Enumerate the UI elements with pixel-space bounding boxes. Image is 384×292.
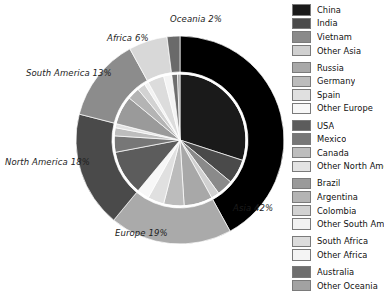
legend-label-other-africa: Other Africa xyxy=(317,250,367,260)
legend-label-china: China xyxy=(317,5,341,15)
legend-item-canada[interactable]: Canada xyxy=(292,146,384,160)
legend-label-other-oceania: Other Oceania xyxy=(317,281,378,291)
legend-group-south-america: BrazilArgentinaColombiaOther South Ame xyxy=(292,177,384,231)
legend-swatch-canada xyxy=(292,147,311,159)
legend-item-spain[interactable]: Spain xyxy=(292,88,384,102)
legend-label-other-asia: Other Asia xyxy=(317,46,361,56)
legend-label-colombia: Colombia xyxy=(317,206,356,216)
legend-item-china[interactable]: China xyxy=(292,3,384,17)
legend-swatch-other-africa xyxy=(292,249,311,261)
legend-item-other-asia[interactable]: Other Asia xyxy=(292,44,384,58)
legend-item-vietnam[interactable]: Vietnam xyxy=(292,30,384,44)
legend-label-spain: Spain xyxy=(317,90,340,100)
legend-item-other-europe[interactable]: Other Europe xyxy=(292,102,384,116)
legend-item-mexico[interactable]: Mexico xyxy=(292,132,384,146)
legend-group-oceania: AustraliaOther Oceania xyxy=(292,265,384,292)
legend-group-asia: ChinaIndiaVietnamOther Asia xyxy=(292,3,384,57)
pie-label-south-america: South America 13% xyxy=(26,68,112,78)
pie-label-oceania: Oceania 2% xyxy=(170,14,222,24)
legend-swatch-usa xyxy=(292,120,311,132)
legend-swatch-india xyxy=(292,18,311,30)
legend-item-other-north-ame[interactable]: Other North Ame xyxy=(292,160,384,174)
legend-item-germany[interactable]: Germany xyxy=(292,74,384,88)
legend-label-other-south-ame: Other South Ame xyxy=(317,219,384,229)
legend-item-other-africa[interactable]: Other Africa xyxy=(292,248,384,262)
legend-label-vietnam: Vietnam xyxy=(317,32,352,42)
legend-swatch-other-oceania xyxy=(292,280,311,292)
legend-label-usa: USA xyxy=(317,121,334,131)
legend-swatch-germany xyxy=(292,76,311,88)
legend-swatch-china xyxy=(292,4,311,16)
pie-label-asia: Asia 42% xyxy=(233,203,273,213)
legend-label-australia: Australia xyxy=(317,267,354,277)
legend-label-brazil: Brazil xyxy=(317,178,340,188)
pie-label-europe: Europe 19% xyxy=(115,228,168,238)
legend-item-usa[interactable]: USA xyxy=(292,119,384,133)
legend-swatch-brazil xyxy=(292,178,311,190)
legend-label-mexico: Mexico xyxy=(317,134,346,144)
legend-item-australia[interactable]: Australia xyxy=(292,265,384,279)
legend-label-south-africa: South Africa xyxy=(317,236,368,246)
legend-swatch-russia xyxy=(292,62,311,74)
inner-pie-countries xyxy=(114,74,246,206)
legend-group-north-america: USAMexicoCanadaOther North Ame xyxy=(292,119,384,173)
legend-swatch-vietnam xyxy=(292,31,311,43)
legend-swatch-south-africa xyxy=(292,236,311,248)
legend: ChinaIndiaVietnamOther AsiaRussiaGermany… xyxy=(292,3,384,246)
legend-label-other-europe: Other Europe xyxy=(317,103,373,113)
legend-label-other-north-ame: Other North Ame xyxy=(317,161,384,171)
legend-swatch-argentina xyxy=(292,191,311,203)
legend-item-other-south-ame[interactable]: Other South Ame xyxy=(292,217,384,231)
legend-swatch-other-europe xyxy=(292,103,311,115)
legend-swatch-other-asia xyxy=(292,45,311,57)
legend-group-africa: South AfricaOther Africa xyxy=(292,235,384,262)
legend-item-russia[interactable]: Russia xyxy=(292,61,384,75)
legend-item-south-africa[interactable]: South Africa xyxy=(292,235,384,249)
legend-item-colombia[interactable]: Colombia xyxy=(292,204,384,218)
pie-label-africa: Africa 6% xyxy=(107,33,149,43)
legend-label-argentina: Argentina xyxy=(317,192,358,202)
legend-swatch-spain xyxy=(292,89,311,101)
legend-label-canada: Canada xyxy=(317,148,349,158)
legend-swatch-colombia xyxy=(292,205,311,217)
legend-swatch-mexico xyxy=(292,133,311,145)
legend-item-other-oceania[interactable]: Other Oceania xyxy=(292,279,384,292)
pie-label-north-america: North America 18% xyxy=(5,157,90,167)
legend-item-brazil[interactable]: Brazil xyxy=(292,177,384,191)
nested-pie-chart: Oceania 2%Africa 6%South America 13%Nort… xyxy=(0,0,285,247)
legend-swatch-other-south-ame xyxy=(292,218,311,230)
legend-item-india[interactable]: India xyxy=(292,17,384,31)
legend-label-russia: Russia xyxy=(317,63,344,73)
legend-label-germany: Germany xyxy=(317,76,355,86)
legend-label-india: India xyxy=(317,18,338,28)
legend-item-argentina[interactable]: Argentina xyxy=(292,190,384,204)
legend-swatch-australia xyxy=(292,266,311,278)
legend-group-europe: RussiaGermanySpainOther Europe xyxy=(292,61,384,115)
legend-swatch-other-north-ame xyxy=(292,161,311,173)
